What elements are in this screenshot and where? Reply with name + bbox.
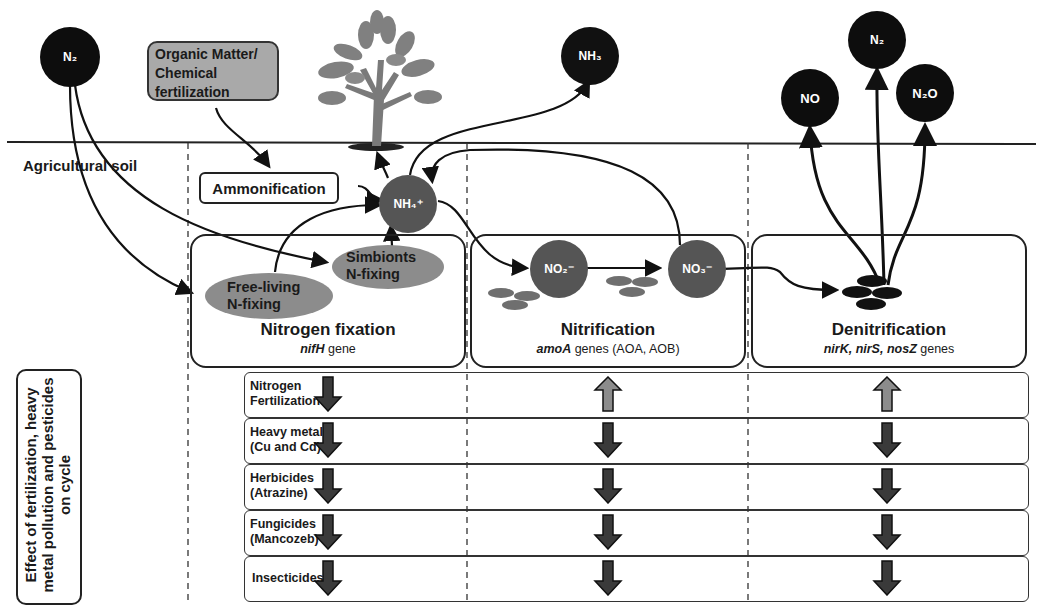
no3-label: NO₃⁻ — [668, 240, 726, 298]
nir-nos-gene-names: nirK, nirS, nosZ — [824, 342, 917, 356]
decrease-arrow-icon — [872, 514, 902, 550]
organic-matter-line-1: Organic Matter/ — [155, 45, 271, 64]
decrease-arrow-icon — [593, 422, 623, 458]
denitrification-box: Denitrification nirK, nirS, nosZ genes — [751, 234, 1027, 368]
gene-suffix: gene — [325, 342, 356, 356]
ammonification-label: Ammonification — [212, 180, 325, 197]
effects-side-label: Effect of fertilization, heavy metal pol… — [22, 371, 73, 599]
nh3-node: NH₃ — [561, 27, 619, 85]
denitrification-title: Denitrification — [753, 320, 1025, 340]
symbionts-line-2: N-fixing — [346, 266, 416, 283]
symbionts-line-1: Simbionts — [346, 249, 416, 266]
no2-node: NO₂⁻ — [530, 240, 588, 298]
decrease-arrow-icon — [593, 560, 623, 596]
amoa-gene-name: amoA — [536, 342, 571, 356]
no-label: NO — [781, 69, 839, 127]
ammonification-box: Ammonification — [199, 172, 339, 204]
denitrification-gene: nirK, nirS, nosZ genes — [753, 342, 1025, 356]
effects-row — [244, 464, 1029, 510]
increase-arrow-icon — [593, 376, 623, 412]
soil-surface-line — [7, 142, 1036, 144]
effects-row — [244, 556, 1029, 602]
n2o-node: N₂O — [896, 64, 954, 122]
increase-arrow-icon — [872, 376, 902, 412]
decrease-arrow-icon — [593, 468, 623, 504]
symbionts-n-fixing: Simbionts N-fixing — [332, 245, 444, 289]
nitrogen-fixation-gene: nifH gene — [192, 342, 464, 356]
decrease-arrow-icon — [313, 514, 343, 550]
n2o-label: N₂O — [896, 64, 954, 122]
nh4-node: NH₄⁺ — [379, 175, 437, 233]
n2-right-node: N₂ — [848, 11, 906, 69]
effects-row — [244, 418, 1029, 464]
organic-matter-line-2: Chemical — [155, 64, 271, 83]
nitrification-title: Nitrification — [472, 320, 744, 340]
nitrogen-fixation-title: Nitrogen fixation — [192, 320, 464, 340]
n2-left-node: N₂ — [40, 27, 100, 87]
decrease-arrow-icon — [313, 422, 343, 458]
decrease-arrow-icon — [313, 376, 343, 412]
gene-suffix: genes (AOA, AOB) — [571, 342, 679, 356]
organic-matter-line-3: fertilization — [155, 83, 271, 102]
organic-matter-box: Organic Matter/ Chemical fertilization — [147, 41, 279, 101]
decrease-arrow-icon — [872, 422, 902, 458]
nitrification-gene: amoA genes (AOA, AOB) — [472, 342, 744, 356]
agricultural-soil-label: Agricultural soil — [23, 157, 137, 174]
nifh-gene-name: nifH — [300, 342, 324, 356]
decrease-arrow-icon — [872, 560, 902, 596]
decrease-arrow-icon — [313, 560, 343, 596]
plant-icon — [317, 10, 442, 151]
nh3-label: NH₃ — [561, 27, 619, 85]
free-living-line-1: Free-living — [227, 279, 300, 296]
no3-node: NO₃⁻ — [668, 240, 726, 298]
nh4-label: NH₄⁺ — [379, 175, 437, 233]
decrease-arrow-icon — [872, 468, 902, 504]
no-node: NO — [781, 69, 839, 127]
effects-row — [244, 372, 1029, 418]
decrease-arrow-icon — [593, 514, 623, 550]
free-living-line-2: N-fixing — [227, 296, 300, 313]
n2-left-label: N₂ — [40, 27, 100, 87]
decrease-arrow-icon — [313, 468, 343, 504]
effects-row — [244, 510, 1029, 556]
gene-suffix: genes — [917, 342, 955, 356]
n2-right-label: N₂ — [848, 11, 906, 69]
no2-label: NO₂⁻ — [530, 240, 588, 298]
free-living-n-fixing: Free-living N-fixing — [205, 273, 333, 319]
